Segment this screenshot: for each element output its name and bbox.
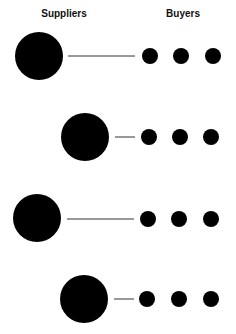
buyer-node: [142, 48, 158, 64]
buyer-node: [141, 129, 157, 145]
buyer-node: [203, 291, 219, 307]
buyer-node: [172, 129, 188, 145]
buyer-node: [139, 291, 155, 307]
row-2: [61, 113, 219, 161]
buyer-node: [140, 211, 156, 227]
supplier-node: [15, 32, 63, 80]
buyer-node: [203, 211, 219, 227]
row-1: [15, 32, 221, 80]
supplier-node: [13, 194, 61, 242]
row-3: [13, 194, 219, 242]
buyer-node: [171, 291, 187, 307]
supplier-node: [60, 275, 108, 323]
row-4: [60, 275, 219, 323]
buyer-node: [173, 48, 189, 64]
supplier-buyer-diagram: [0, 0, 236, 334]
buyer-node: [205, 48, 221, 64]
buyer-node: [203, 129, 219, 145]
supplier-node: [61, 113, 109, 161]
buyer-node: [171, 211, 187, 227]
